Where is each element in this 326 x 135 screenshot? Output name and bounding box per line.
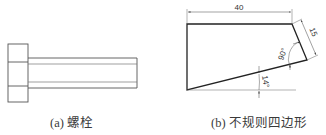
quadrilateral-drawing: 40 15 90° 14° xyxy=(187,3,319,98)
bolt-drawing xyxy=(8,44,137,102)
angle-90-label: 90° xyxy=(276,47,289,61)
quadrilateral-outline xyxy=(187,24,307,90)
angle-90-arrow-top xyxy=(293,42,300,44)
bolt-head xyxy=(8,44,28,102)
caption-bolt: (a) 螺栓 xyxy=(50,112,93,131)
dim-40-label: 40 xyxy=(235,3,244,12)
dim-15-extension-bottom xyxy=(307,55,318,60)
dim-15-extension-top xyxy=(292,19,302,24)
dim-15-label: 15 xyxy=(307,26,319,38)
caption-quadrilateral: (b) 不规则四边形 xyxy=(211,112,307,131)
angle-14-label: 14° xyxy=(260,75,271,88)
